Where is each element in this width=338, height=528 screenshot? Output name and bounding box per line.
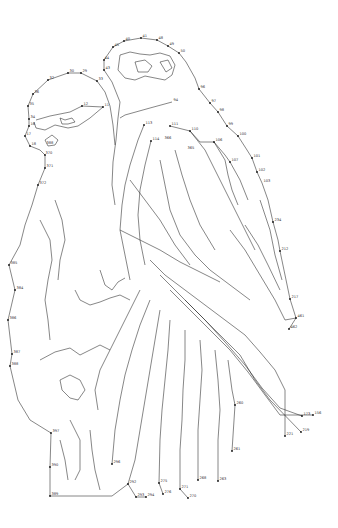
- dot-number: 388: [47, 141, 55, 145]
- dot-number: 97: [212, 99, 217, 103]
- outline-segment: [60, 118, 75, 124]
- dot-number: 30: [70, 69, 75, 73]
- dot-number: 385: [11, 261, 18, 265]
- outline-segment: [104, 70, 120, 205]
- outline-segment: [230, 230, 296, 320]
- dot-number: 107: [232, 158, 239, 162]
- dot-number: 44: [105, 56, 110, 60]
- dot-to-dot-bird-drawing: 4140484950444345302932333635111234161718…: [0, 0, 338, 528]
- dot-number: 36: [35, 90, 40, 94]
- outline-segment: [245, 225, 280, 290]
- outline-segment: [120, 102, 172, 118]
- outline-segment: [75, 290, 130, 305]
- dot-number: 103: [264, 179, 271, 183]
- outline-segment: [160, 160, 250, 300]
- outline-segment: [60, 375, 85, 400]
- dot-number: 33: [99, 77, 104, 81]
- dot-number: 111: [172, 122, 179, 126]
- dot-number: 41: [143, 34, 148, 38]
- outline-segment: [34, 106, 103, 130]
- outline-segment: [160, 275, 301, 432]
- dot-number: 212: [282, 247, 289, 251]
- dot-number: 34: [31, 115, 36, 119]
- dot-number: 388: [12, 362, 20, 366]
- dot-number: 268: [200, 476, 208, 480]
- dot-number: 35: [30, 102, 35, 106]
- dot-number: 275: [161, 479, 168, 483]
- dot-number: 276: [165, 490, 173, 494]
- dot-number: 50: [181, 49, 186, 53]
- dot-number: 390: [52, 463, 60, 467]
- dot-number: 260: [237, 401, 245, 405]
- dot-number: 219: [303, 428, 311, 432]
- outline-segment: [215, 350, 220, 481]
- dot-number: 94: [174, 98, 179, 102]
- outline-segment: [180, 330, 188, 498]
- outline-segment: [128, 310, 160, 484]
- dot-number: 221: [287, 432, 294, 436]
- dot-number: 397: [53, 429, 60, 433]
- dot-number: 384: [17, 286, 25, 290]
- dot-number: 462: [291, 325, 298, 329]
- dot-number: 114: [153, 137, 161, 141]
- dot-number: 49: [170, 42, 175, 46]
- dot-number: 173: [304, 412, 311, 416]
- dot-number: 12: [84, 102, 89, 106]
- outline-segment: [70, 420, 80, 480]
- dot-number: 99: [229, 122, 234, 126]
- outline-segment: [185, 300, 302, 416]
- dot-number: 102: [259, 168, 266, 172]
- outline-segment: [40, 345, 110, 360]
- outline-segment: [118, 52, 175, 80]
- outline-segment: [130, 180, 190, 265]
- dot-number: 389: [52, 492, 60, 496]
- outline-segment: [112, 300, 150, 464]
- outline-segment: [97, 81, 115, 145]
- dot-number: 98: [220, 108, 225, 112]
- outline-segment: [90, 430, 100, 490]
- dot-number: 100: [240, 132, 248, 136]
- outline-segment: [120, 125, 144, 280]
- outline-segment: [60, 440, 68, 480]
- dot-number: 371: [47, 164, 54, 168]
- dot-number: 461: [298, 314, 305, 318]
- outline-segment: [55, 200, 65, 280]
- outline-segment: [190, 131, 255, 250]
- dot-number: 40: [126, 37, 131, 41]
- dot-number: 365: [188, 146, 195, 150]
- dot-number: 17: [27, 132, 32, 136]
- dot-number: 263: [220, 477, 227, 481]
- outline-segment: [100, 270, 125, 290]
- outline-segment: [120, 230, 220, 282]
- outline-segment: [159, 320, 170, 494]
- dot-number: 294: [148, 493, 156, 497]
- dot-number: 387: [14, 350, 21, 354]
- outline-segment: [170, 126, 248, 200]
- dot-number: 32: [50, 76, 55, 80]
- outline-segment: [175, 150, 215, 250]
- outline-segment: [214, 142, 238, 205]
- outline-segment: [135, 60, 152, 72]
- outline-segment: [228, 360, 235, 451]
- dot-number: 48: [159, 36, 164, 40]
- dot-number: 261: [234, 447, 241, 451]
- dot-number: 366: [165, 136, 173, 140]
- dot-number: 11: [105, 103, 110, 107]
- dot-number: 386: [10, 316, 18, 320]
- outline-segment: [95, 290, 140, 410]
- dot-number: 43: [106, 66, 111, 70]
- dot-number: 96: [201, 85, 206, 89]
- outline-segment: [160, 60, 172, 72]
- outline-segment: [40, 220, 52, 340]
- dot-number: 292: [130, 480, 137, 484]
- dot-number: 293: [138, 493, 145, 497]
- dot-number: 271: [182, 485, 189, 489]
- outline-segment: [170, 290, 313, 415]
- dot-number: 29: [83, 69, 88, 73]
- dot-number: 296: [114, 460, 122, 464]
- outline-segment: [138, 141, 151, 265]
- dot-number: 372: [40, 181, 47, 185]
- dot-number: 18: [32, 142, 37, 146]
- dot-number: 113: [146, 121, 153, 125]
- dot-number: 217: [292, 295, 299, 299]
